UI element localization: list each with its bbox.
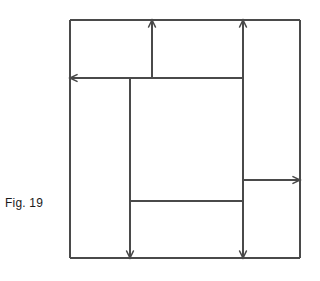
arrow-marker-layer (70, 20, 300, 258)
squared-rectangle-dissection-diagram (0, 0, 320, 281)
segment-layer (70, 20, 300, 258)
figure-caption: Fig. 19 (5, 196, 43, 210)
figure-container: Fig. 19 (0, 0, 320, 281)
